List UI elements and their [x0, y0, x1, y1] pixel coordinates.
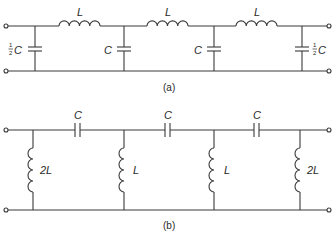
capacitor-a-2: [117, 26, 131, 71]
capacitor-b-2-label: C: [164, 109, 172, 121]
inductor-b-3-label: L: [224, 164, 230, 176]
capacitor-b-3: [254, 123, 259, 137]
inductor-a-3: [236, 21, 277, 26]
capacitor-b-3-label: C: [253, 109, 261, 121]
capacitor-a-2-label: C: [104, 44, 112, 56]
inductor-b-4-label: 2L: [306, 164, 319, 176]
terminal-b-out-top: [327, 128, 331, 132]
inductor-b-3: [209, 130, 214, 210]
terminal-a-out-top: [327, 24, 331, 28]
svg-text:2: 2: [313, 50, 317, 56]
inductor-b-2: [119, 130, 124, 210]
inductor-b-1: [28, 130, 33, 210]
svg-text:C: C: [14, 44, 22, 56]
inductor-b-2-label: L: [133, 164, 139, 176]
svg-text:C: C: [318, 44, 326, 56]
circuit-diagram: L L L 1: [0, 0, 336, 237]
inductor-a-1: [59, 21, 100, 26]
terminal-b-in-top: [4, 128, 8, 132]
caption-a: (a): [163, 82, 175, 93]
inductor-a-2-label: L: [165, 6, 171, 18]
capacitor-b-2: [165, 123, 170, 137]
inductor-a-3-label: L: [254, 6, 260, 18]
circuit-a: L L L 1: [4, 6, 331, 93]
svg-text:2: 2: [9, 50, 13, 56]
capacitor-a-3: [207, 26, 221, 71]
terminal-a-in-bottom: [4, 69, 8, 73]
inductor-b-1-label: 2L: [39, 164, 52, 176]
inductor-a-1-label: L: [77, 6, 83, 18]
capacitor-b-1: [75, 123, 80, 137]
inductor-a-2: [147, 21, 188, 26]
capacitor-a-3-label: C: [194, 44, 202, 56]
circuit-b: C C C 2L L L 2L (b): [4, 109, 331, 231]
capacitor-a-4-label: 1 2 C: [313, 42, 327, 56]
terminal-a-in-top: [4, 24, 8, 28]
capacitor-a-1-label: 1 2 C: [9, 42, 23, 56]
terminal-b-out-bottom: [327, 208, 331, 212]
capacitor-a-1: [28, 26, 42, 71]
terminal-a-out-bottom: [327, 69, 331, 73]
terminal-b-in-bottom: [4, 208, 8, 212]
svg-text:1: 1: [9, 42, 13, 48]
inductor-b-4: [295, 130, 300, 210]
svg-text:1: 1: [313, 42, 317, 48]
capacitor-b-1-label: C: [74, 109, 82, 121]
caption-b: (b): [163, 220, 175, 231]
capacitor-a-4: [295, 26, 309, 71]
